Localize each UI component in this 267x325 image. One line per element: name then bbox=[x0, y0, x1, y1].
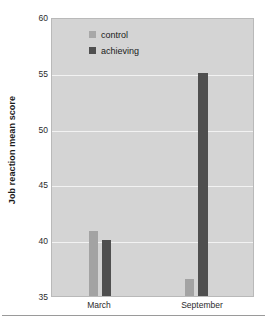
gridline-55 bbox=[52, 75, 253, 76]
bar-september-control bbox=[185, 279, 194, 296]
x-tick-label-march: March bbox=[87, 300, 111, 310]
bar-march-control bbox=[89, 231, 98, 296]
y-tick-label-50: 50 bbox=[22, 125, 48, 134]
y-axis-tick-labels: 60 55 50 45 40 35 bbox=[20, 0, 48, 325]
y-tick-label-60: 60 bbox=[22, 14, 48, 23]
legend-swatch-achieving-icon bbox=[89, 47, 96, 54]
y-tick-label-35: 35 bbox=[22, 293, 48, 302]
y-axis-title: Job reaction mean score bbox=[3, 0, 21, 300]
bottom-divider bbox=[2, 315, 265, 316]
y-tick-label-40: 40 bbox=[22, 237, 48, 246]
bar-september-achieving bbox=[198, 73, 208, 296]
bar-chart-figure: Job reaction mean score 60 55 50 45 40 3… bbox=[0, 0, 267, 325]
y-axis-title-text: Job reaction mean score bbox=[7, 96, 17, 204]
legend-item-control: control bbox=[89, 28, 139, 41]
gridline-40 bbox=[52, 242, 253, 243]
bar-march-achieving bbox=[102, 240, 111, 296]
x-tick-label-september: September bbox=[181, 300, 223, 310]
y-tick-label-45: 45 bbox=[22, 181, 48, 190]
gridline-50 bbox=[52, 131, 253, 132]
legend-label-control: control bbox=[101, 30, 128, 40]
plot-area: control achieving bbox=[51, 18, 254, 297]
legend-label-achieving: achieving bbox=[101, 46, 139, 56]
gridline-45 bbox=[52, 186, 253, 187]
legend-item-achieving: achieving bbox=[89, 44, 139, 57]
legend: control achieving bbox=[89, 28, 139, 60]
legend-swatch-control-icon bbox=[89, 31, 96, 38]
y-tick-label-55: 55 bbox=[22, 70, 48, 79]
